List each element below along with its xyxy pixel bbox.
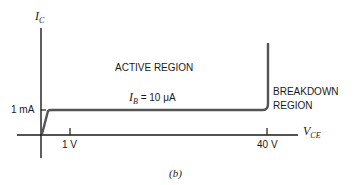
ic-curve bbox=[42, 43, 268, 134]
y-axis-label: IC bbox=[35, 11, 44, 23]
active-region-label: ACTIVE REGION bbox=[115, 62, 193, 73]
y-tick-label: 1 mA bbox=[11, 104, 34, 115]
curve-label-subscript: B bbox=[133, 97, 138, 106]
x-tick-label-40v: 40 V bbox=[257, 139, 278, 150]
curve-label: IB = 10 μA bbox=[129, 92, 176, 104]
breakdown-region-label-line1: BREAKDOWN bbox=[273, 86, 339, 97]
x-tick-label-1v: 1 V bbox=[62, 139, 77, 150]
y-axis-subscript: C bbox=[39, 16, 44, 25]
x-axis-label: VCE bbox=[303, 126, 321, 138]
figure-caption: (b) bbox=[169, 168, 182, 179]
figure-caption-text: (b) bbox=[169, 167, 182, 179]
x-axis-subscript: CE bbox=[310, 131, 320, 140]
curve-label-value: = 10 μA bbox=[138, 92, 176, 103]
breakdown-region-label-line2: REGION bbox=[273, 100, 312, 111]
